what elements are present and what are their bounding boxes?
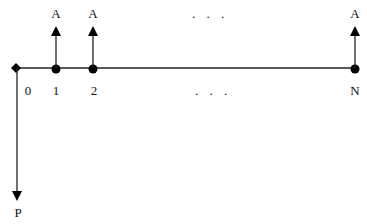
payment-label-2: A	[88, 7, 97, 20]
up-arrow-icon	[88, 26, 98, 36]
period-label-n: N	[350, 84, 359, 97]
period-label-1: 1	[53, 84, 60, 97]
payment-label-1: A	[51, 7, 60, 20]
ellipsis-top: . . .	[192, 7, 228, 20]
down-arrow-icon	[12, 191, 22, 201]
up-arrow-icon	[350, 26, 360, 36]
period-label-0: 0	[25, 84, 32, 97]
origin-marker	[11, 63, 21, 73]
cash-flow-diagram	[0, 0, 367, 224]
ellipsis-bottom: . . .	[195, 84, 231, 97]
payment-label-n: A	[350, 7, 359, 20]
period-label-2: 2	[91, 84, 98, 97]
up-arrow-icon	[51, 26, 61, 36]
present-value-label: P	[14, 206, 21, 219]
